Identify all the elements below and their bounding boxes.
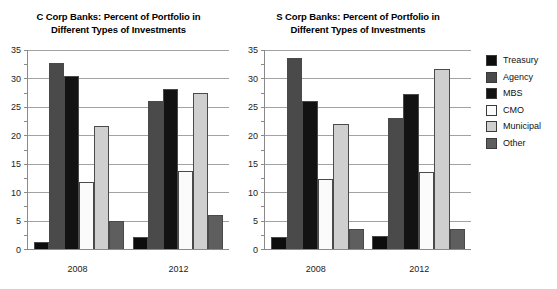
plot-area-c-corp: 05101520253035 20082012 [0, 50, 237, 260]
chart-panel-c-corp: C Corp Banks: Percent of Portfolio in Di… [0, 0, 237, 289]
y-axis-labels-s-corp: 05101520253035 [237, 50, 261, 250]
y-tick-label: 15 [11, 159, 21, 169]
bar-municipal-2012 [434, 69, 450, 249]
bar-group-2012 [368, 50, 471, 249]
legend-swatch-icon [486, 88, 497, 99]
bar-other-2012 [208, 215, 223, 249]
y-tick-label: 35 [11, 45, 21, 55]
bar-groups-c-corp [28, 50, 229, 249]
legend-item-cmo: CMO [486, 105, 556, 116]
legend-item-label: Treasury [503, 55, 538, 66]
y-axis-labels-c-corp: 05101520253035 [0, 50, 24, 250]
bar-mbs-2012 [163, 89, 178, 249]
legend-item-municipal: Municipal [486, 121, 556, 132]
legend-item-agency: Agency [486, 72, 556, 83]
bar-other-2008 [349, 229, 365, 249]
y-tick-label: 20 [248, 131, 258, 141]
bar-agency-2008 [49, 63, 64, 249]
y-tick-label: 10 [11, 188, 21, 198]
legend-swatch-icon [486, 138, 497, 149]
y-tick-label: 20 [11, 131, 21, 141]
x-axis-labels-s-corp: 20082012 [264, 264, 471, 274]
x-tick-label: 2008 [27, 264, 128, 274]
y-tick-label: 5 [16, 216, 21, 226]
bar-agency-2012 [388, 118, 404, 249]
legend-item-label: Municipal [503, 121, 541, 132]
bar-municipal-2012 [193, 93, 208, 249]
chart-title-s-corp: S Corp Banks: Percent of Portfolio in Di… [237, 10, 479, 36]
y-tick-label: 5 [253, 216, 258, 226]
y-tick-label: 0 [253, 245, 258, 255]
chart-title-line-2: Different Types of Investments [0, 23, 237, 36]
y-tick-label: 10 [248, 188, 258, 198]
plot-canvas-c-corp [27, 50, 229, 250]
chart-title-line-1: C Corp Banks: Percent of Portfolio in [0, 10, 237, 23]
legend-item-label: MBS [503, 88, 523, 99]
y-tick-label: 30 [248, 74, 258, 84]
chart-title-line-1: S Corp Banks: Percent of Portfolio in [237, 10, 479, 23]
bar-treasury-2008 [271, 237, 287, 250]
x-tick-label: 2012 [128, 264, 229, 274]
x-tick-label: 2012 [368, 264, 472, 274]
legend-swatch-icon [486, 121, 497, 132]
bar-treasury-2012 [133, 237, 148, 250]
bar-municipal-2008 [94, 126, 109, 249]
bar-agency-2012 [148, 101, 163, 249]
bar-municipal-2008 [333, 124, 349, 249]
legend-swatch-icon [486, 55, 497, 66]
bar-mbs-2012 [403, 94, 419, 249]
x-tick-label: 2008 [264, 264, 368, 274]
bar-cmo-2008 [79, 182, 94, 249]
legend-item-label: Other [503, 138, 526, 149]
legend-swatch-icon [486, 105, 497, 116]
bar-groups-s-corp [265, 50, 471, 249]
y-tick-label: 25 [248, 102, 258, 112]
bar-cmo-2012 [178, 171, 193, 249]
plot-area-s-corp: 05101520253035 20082012 [237, 50, 479, 260]
y-tick-label: 30 [11, 74, 21, 84]
legend-item-label: CMO [503, 105, 524, 116]
y-tick-label: 15 [248, 159, 258, 169]
x-axis-labels-c-corp: 20082012 [27, 264, 229, 274]
dual-bar-chart-figure: C Corp Banks: Percent of Portfolio in Di… [0, 0, 557, 289]
chart-panel-s-corp: S Corp Banks: Percent of Portfolio in Di… [237, 0, 479, 289]
bar-mbs-2008 [64, 76, 79, 249]
legend-item-treasury: Treasury [486, 55, 556, 66]
y-tick-label: 0 [16, 245, 21, 255]
bar-other-2008 [109, 221, 124, 249]
chart-legend: TreasuryAgencyMBSCMOMunicipalOther [486, 55, 556, 149]
bar-treasury-2012 [372, 236, 388, 249]
legend-item-other: Other [486, 138, 556, 149]
bar-cmo-2012 [419, 172, 435, 249]
bar-agency-2008 [287, 58, 303, 249]
legend-swatch-icon [486, 72, 497, 83]
bar-treasury-2008 [34, 242, 49, 249]
y-tick-label: 35 [248, 45, 258, 55]
bar-mbs-2008 [302, 101, 318, 249]
y-tick-mark [24, 249, 28, 250]
y-tick-label: 25 [11, 102, 21, 112]
y-tick-mark [261, 249, 265, 250]
chart-title-line-2: Different Types of Investments [237, 23, 479, 36]
bar-other-2012 [450, 229, 466, 249]
bar-cmo-2008 [318, 179, 334, 249]
bar-group-2008 [265, 50, 368, 249]
legend-item-label: Agency [503, 72, 533, 83]
bar-group-2012 [129, 50, 230, 249]
bar-group-2008 [28, 50, 129, 249]
plot-canvas-s-corp [264, 50, 471, 250]
legend-item-mbs: MBS [486, 88, 556, 99]
chart-title-c-corp: C Corp Banks: Percent of Portfolio in Di… [0, 10, 237, 36]
